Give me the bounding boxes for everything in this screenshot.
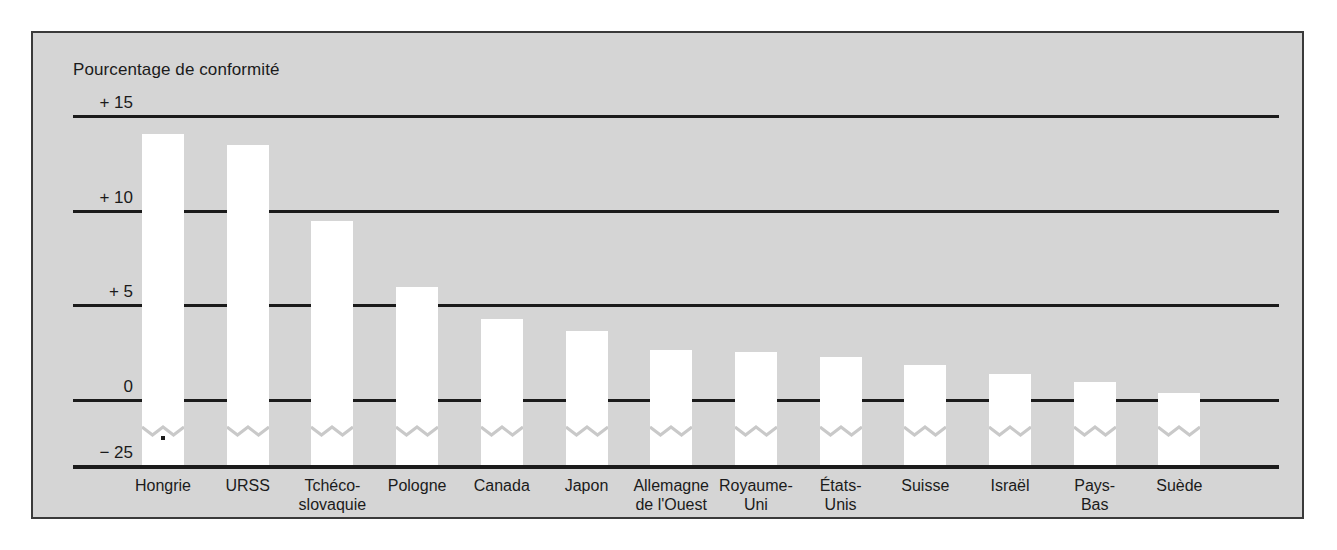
bar <box>481 319 523 465</box>
bar <box>820 357 862 465</box>
y-axis-tick-label: + 5 <box>69 282 133 302</box>
screenshot-root: Pourcentage de conformité + 15+ 10+ 50− … <box>0 0 1337 550</box>
bar <box>396 287 438 465</box>
bar <box>989 374 1031 465</box>
bar <box>1074 382 1116 465</box>
bar <box>311 221 353 465</box>
gridline <box>73 115 1279 118</box>
bar <box>227 145 269 465</box>
bar <box>904 365 946 465</box>
axis-baseline <box>73 465 1279 469</box>
bar <box>735 352 777 465</box>
y-axis-tick-label: 0 <box>69 377 133 397</box>
y-axis-tick-label: + 15 <box>69 93 133 113</box>
bar <box>650 350 692 465</box>
y-axis-tick-label: + 10 <box>69 188 133 208</box>
bar <box>1158 393 1200 465</box>
bar-marker-dot <box>161 436 165 440</box>
y-axis-tick-label: − 25 <box>69 443 133 463</box>
bar <box>142 134 184 465</box>
chart-title: Pourcentage de conformité <box>73 60 280 80</box>
bar-chart-plot: Pourcentage de conformité + 15+ 10+ 50− … <box>33 33 1302 517</box>
bar <box>566 331 608 465</box>
chart-frame: Pourcentage de conformité + 15+ 10+ 50− … <box>31 31 1304 519</box>
x-axis-category-label: Suède <box>1129 476 1229 495</box>
